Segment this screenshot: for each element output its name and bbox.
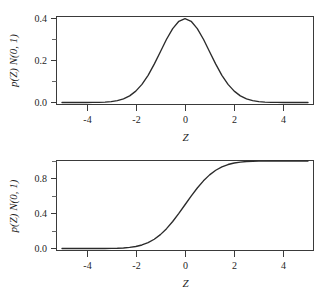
cdf-panel-background bbox=[0, 148, 333, 296]
cdf-x-tick-label: -4 bbox=[83, 260, 91, 271]
pdf-y-tick-label: 0.4 bbox=[35, 13, 48, 24]
cdf-x-axis-title: Z bbox=[182, 277, 189, 289]
cdf-x-tick-label: 4 bbox=[281, 260, 286, 271]
pdf-x-tick-label: 0 bbox=[183, 114, 188, 125]
cdf-x-tick-label: 0 bbox=[183, 260, 188, 271]
pdf-plot-svg: -4 -2 0 2 4 0.0 0.2 0.4 Z p(Z) N(0, 1) bbox=[0, 0, 333, 148]
cdf-panel: -4 -2 0 2 4 0.0 0.4 0.8 Z p(Z) N(0, 1) bbox=[0, 148, 333, 296]
cdf-y-axis-title: p(Z) N(0, 1) bbox=[7, 179, 20, 233]
pdf-x-axis-title: Z bbox=[182, 131, 189, 143]
cdf-y-tick-label: 0.4 bbox=[35, 208, 48, 219]
pdf-panel: -4 -2 0 2 4 0.0 0.2 0.4 Z p(Z) N(0, 1) bbox=[0, 0, 333, 148]
pdf-y-tick-label: 0.0 bbox=[35, 97, 48, 108]
pdf-x-tick-label: -4 bbox=[83, 114, 91, 125]
pdf-x-tick-label: 2 bbox=[232, 114, 237, 125]
pdf-y-axis-title: p(Z) N(0, 1) bbox=[7, 34, 20, 88]
cdf-x-tick-label: -2 bbox=[132, 260, 140, 271]
cdf-y-tick-label: 0.8 bbox=[35, 173, 48, 184]
pdf-x-tick-label: 4 bbox=[281, 114, 286, 125]
pdf-x-tick-label: -2 bbox=[132, 114, 140, 125]
cdf-x-tick-label: 2 bbox=[232, 260, 237, 271]
pdf-y-tick-label: 0.2 bbox=[35, 55, 48, 66]
cdf-plot-svg: -4 -2 0 2 4 0.0 0.4 0.8 Z p(Z) N(0, 1) bbox=[0, 148, 333, 296]
pdf-panel-background bbox=[0, 0, 333, 148]
two-panel-normal-distribution-figure: -4 -2 0 2 4 0.0 0.2 0.4 Z p(Z) N(0, 1) bbox=[0, 0, 333, 296]
cdf-y-tick-label: 0.0 bbox=[35, 243, 48, 254]
